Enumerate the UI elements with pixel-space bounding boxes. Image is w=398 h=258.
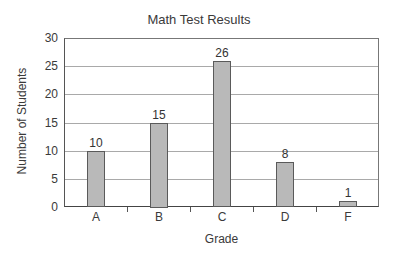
x-category-label: D [265, 210, 305, 224]
x-tick-mark [190, 207, 191, 212]
bar-value-label: 26 [202, 46, 242, 60]
x-category-label: F [328, 210, 368, 224]
bar-value-label: 1 [328, 186, 368, 200]
x-tick-mark [316, 207, 317, 212]
x-category-label: A [76, 210, 116, 224]
y-tick-label: 20 [28, 87, 58, 101]
x-tick-mark [253, 207, 254, 212]
bar-b [150, 123, 168, 208]
y-tick-label: 30 [28, 31, 58, 45]
bar-value-label: 15 [139, 108, 179, 122]
bar-chart: Math Test Results Number of Students Gra… [0, 0, 398, 258]
x-axis-label: Grade [64, 232, 379, 246]
y-tick-label: 5 [28, 172, 58, 186]
x-category-label: C [202, 210, 242, 224]
bar-d [276, 162, 294, 207]
y-axis-label: Number of Students [15, 61, 29, 181]
y-tick-label: 25 [28, 59, 58, 73]
bar-a [87, 151, 105, 207]
y-tick-label: 0 [28, 200, 58, 214]
bar-c [213, 61, 231, 207]
y-tick-label: 10 [28, 144, 58, 158]
x-category-label: B [139, 210, 179, 224]
y-tick-label: 15 [28, 116, 58, 130]
x-tick-mark [127, 207, 128, 212]
bar-f [339, 201, 357, 207]
bar-value-label: 8 [265, 147, 305, 161]
chart-title: Math Test Results [0, 12, 398, 27]
bar-value-label: 10 [76, 136, 116, 150]
